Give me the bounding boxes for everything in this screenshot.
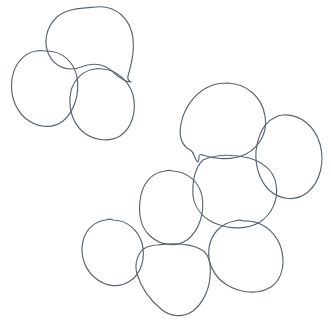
background-rect: [0, 0, 331, 332]
cell-outline-svg: [0, 0, 331, 332]
figure-canvas: [0, 0, 331, 332]
